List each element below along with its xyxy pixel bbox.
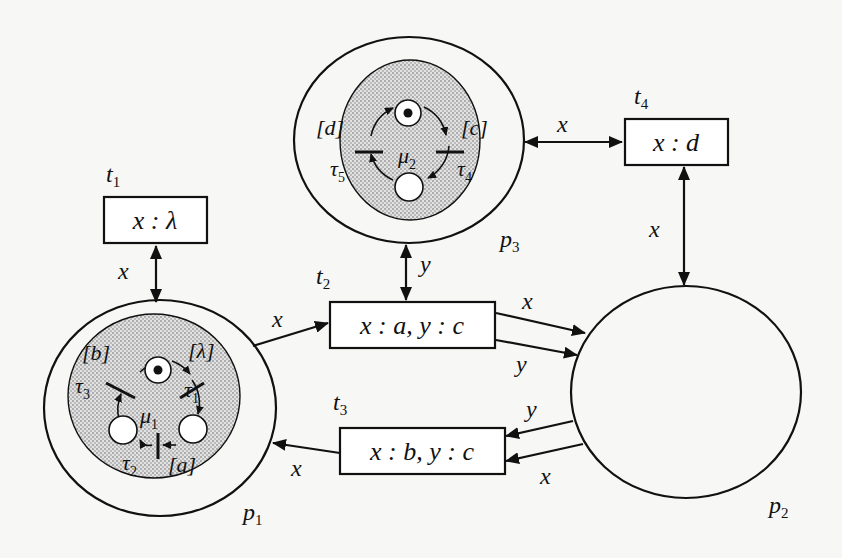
place-p2-label: p2: [767, 492, 789, 521]
arc-label: x: [271, 306, 283, 332]
token: [154, 366, 163, 375]
arc-p3-t2: y: [406, 245, 431, 300]
tau2-guard: [a]: [168, 452, 196, 477]
arc-p2-t3-x: x: [506, 444, 583, 489]
arc-p1-t1: x: [117, 246, 156, 302]
arc-label: x: [539, 463, 551, 489]
petri-net-diagram: μ1 τ1 τ3 τ2 [b] [λ] [a] p1 μ2 τ5 τ4 [d]: [0, 0, 842, 558]
transition-t4-label: t4: [634, 83, 649, 112]
inner-place: [395, 173, 423, 201]
place-p1-label: p1: [241, 499, 263, 528]
transition-t1-label: t1: [106, 161, 120, 190]
transition-t2-label: t2: [316, 263, 330, 292]
transition-t4-guard: x : d: [652, 128, 700, 157]
arc-line: [253, 323, 328, 346]
arc-p3-t4: x: [525, 111, 622, 142]
arc-line: [496, 340, 577, 355]
arc-t2-p2-x: x: [496, 288, 585, 333]
place-p1: μ1 τ1 τ3 τ2 [b] [λ] [a] p1: [44, 300, 276, 528]
arc-label: y: [514, 351, 527, 377]
place-p2-outer: [571, 286, 801, 498]
arc-t2-p2-y: y: [496, 340, 577, 377]
arc-label: y: [418, 251, 431, 277]
arc-line: [506, 421, 573, 436]
arc-p2-t3-y: y: [506, 396, 573, 436]
inner-place: [109, 416, 137, 444]
place-p3: μ2 τ5 τ4 [d] [c] p3: [294, 37, 524, 255]
tau1-guard: [λ]: [188, 338, 215, 363]
transition-t1-guard: x : λ: [132, 206, 177, 235]
transition-t3-label: t3: [333, 389, 347, 418]
place-p2: p2: [571, 286, 801, 521]
arc-p1-t2: x: [253, 306, 328, 346]
tau4-guard: [c]: [461, 115, 488, 140]
transition-t3: x : b, y : c t3: [333, 389, 505, 474]
tau3-guard: [b]: [82, 340, 110, 365]
tau5-guard: [d]: [316, 115, 344, 140]
arc-t3-p1: x: [273, 443, 340, 481]
token: [404, 109, 413, 118]
arc-label: x: [556, 111, 568, 137]
transition-t4: x : d t4: [625, 83, 728, 165]
arc-line: [496, 313, 585, 333]
transition-t2-guard: x : a, y : c: [359, 311, 464, 340]
arc-label: y: [524, 396, 537, 422]
arc-label: x: [648, 216, 660, 242]
transition-t3-guard: x : b, y : c: [369, 437, 474, 466]
arc-line: [273, 443, 340, 453]
transition-t1: x : λ t1: [104, 161, 207, 243]
arc-t4-p2: x: [648, 167, 684, 285]
arc-label: x: [290, 455, 302, 481]
arc-label: x: [521, 288, 533, 314]
arc-label: x: [117, 258, 129, 284]
inner-place: [179, 415, 207, 443]
arc-line: [506, 444, 583, 461]
place-p3-label: p3: [498, 226, 520, 255]
